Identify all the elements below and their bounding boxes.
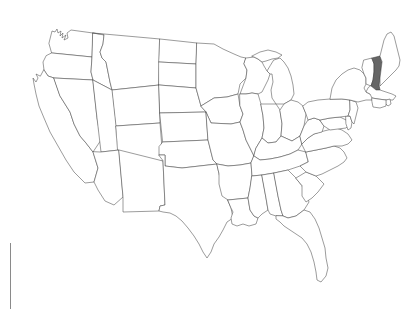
state-wa[interactable] xyxy=(49,29,93,57)
state-ct[interactable] xyxy=(372,98,386,108)
state-or[interactable] xyxy=(43,53,93,80)
state-pa[interactable] xyxy=(303,99,350,120)
state-mi[interactable] xyxy=(267,58,294,104)
state-layer[interactable] xyxy=(33,29,400,282)
left-edge-rule-artifact xyxy=(10,243,11,309)
state-me[interactable] xyxy=(380,32,400,86)
map-page xyxy=(0,0,420,309)
state-mn[interactable] xyxy=(196,43,247,106)
state-ok[interactable] xyxy=(159,140,217,168)
state-ar[interactable] xyxy=(217,163,252,200)
united-states-map[interactable] xyxy=(0,0,420,309)
state-wy[interactable] xyxy=(112,85,160,126)
state-az[interactable] xyxy=(93,150,123,205)
state-nd[interactable] xyxy=(159,39,197,64)
state-ri[interactable] xyxy=(386,99,391,106)
state-sd[interactable] xyxy=(159,62,196,88)
state-in[interactable] xyxy=(261,104,282,143)
state-fl[interactable] xyxy=(276,210,328,282)
state-ks[interactable] xyxy=(160,112,208,142)
